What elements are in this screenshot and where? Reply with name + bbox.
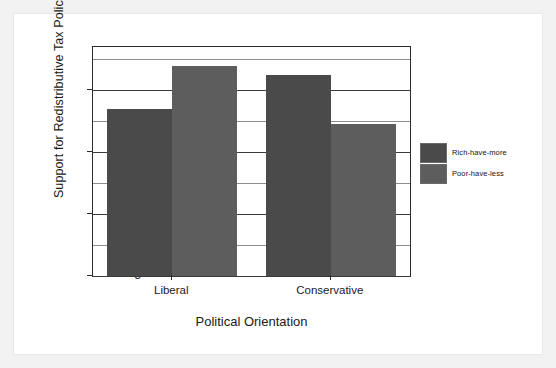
x-axis-tick-mark	[330, 275, 331, 280]
bar-conservative-poor-have-less	[331, 124, 396, 276]
x-axis-tick-label-liberal: Liberal	[111, 284, 231, 296]
legend-swatch	[420, 143, 447, 163]
y-axis-title: Support for Redistributive Tax Policies	[52, 0, 66, 206]
chart-figure: Support for Redistributive Tax Policies …	[14, 14, 542, 354]
bar-liberal-poor-have-less	[172, 66, 237, 276]
x-axis-tick-label-conservative: Conservative	[270, 284, 390, 296]
x-axis-tick-mark	[171, 275, 172, 280]
bar-conservative-rich-have-more	[266, 75, 331, 276]
legend-item: Poor-have-less	[420, 163, 530, 184]
legend-label: Rich-have-more	[452, 148, 507, 157]
legend-item: Rich-have-more	[420, 142, 530, 163]
bar-liberal-rich-have-more	[107, 109, 172, 276]
gridline-minor	[93, 59, 410, 60]
plot-area	[92, 46, 411, 277]
gridline-major	[93, 276, 410, 277]
legend-label: Poor-have-less	[452, 169, 504, 178]
x-axis-title: Political Orientation	[92, 314, 411, 329]
chart-legend: Rich-have-morePoor-have-less	[420, 142, 530, 184]
gridline-major	[93, 90, 410, 91]
legend-swatch	[420, 164, 447, 184]
